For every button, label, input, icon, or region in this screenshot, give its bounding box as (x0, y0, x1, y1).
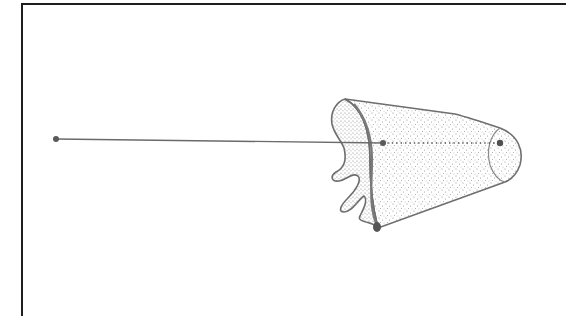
source-line (56, 139, 383, 143)
far-center-point (497, 140, 503, 146)
source-point (53, 136, 59, 142)
base-point (373, 222, 381, 232)
frustum-diagram (0, 0, 566, 316)
diagram-canvas: Point-source line to a stippled frustum … (0, 0, 566, 316)
near-center-point (380, 140, 386, 146)
